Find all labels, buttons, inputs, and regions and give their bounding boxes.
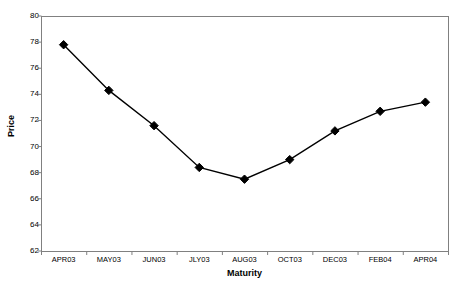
x-axis-tick-label: FEB04 <box>369 255 392 264</box>
x-axis-tick-label: JLY03 <box>189 255 210 264</box>
x-axis-tick-label: MAY03 <box>97 255 121 264</box>
x-axis-tick-label: OCT03 <box>278 255 302 264</box>
x-axis-tick-label: AUG03 <box>232 255 257 264</box>
x-axis-tick-label: DEC03 <box>323 255 347 264</box>
price-maturity-line-chart: Price 62646668707274767880 APR03MAY03JUN… <box>0 0 460 288</box>
x-axis-tick-label: APR03 <box>52 255 76 264</box>
x-axis-title: Maturity <box>41 268 448 278</box>
x-axis-tick-label: JUN03 <box>143 255 166 264</box>
plot-frame <box>42 17 449 252</box>
x-axis-tick-label: APR04 <box>413 255 437 264</box>
plot-area <box>0 0 460 288</box>
